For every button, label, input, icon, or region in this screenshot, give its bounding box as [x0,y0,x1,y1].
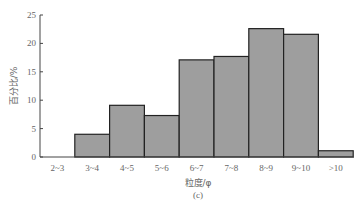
y-tick-label: 0 [32,152,37,162]
x-tick-label: 2~3 [50,163,64,173]
y-tick-label: 5 [32,124,37,134]
bar-3 [144,116,179,157]
bar-8 [318,151,353,157]
x-tick-label: >10 [329,163,344,173]
x-tick-labels: 2~33~44~55~66~77~88~99~10>10 [50,163,343,173]
histogram-chart: 0510152025 2~33~44~55~66~77~88~99~10>10 … [0,0,364,220]
x-tick-label: 5~6 [155,163,169,173]
y-axis-label: 百分比/% [8,66,19,105]
bar-1 [75,134,110,157]
y-tick-label: 20 [27,38,37,48]
figure-caption: (c) [193,190,203,200]
bars-group [75,29,353,157]
bar-2 [110,105,145,157]
x-axis-label: 粒度/φ [185,177,212,188]
bar-7 [284,34,319,157]
y-tick-label: 15 [27,67,37,77]
x-tick-label: 8~9 [259,163,273,173]
x-tick-label: 4~5 [120,163,134,173]
bar-6 [249,29,284,157]
y-ticks: 0510152025 [27,10,43,162]
x-tick-label: 6~7 [190,163,204,173]
x-tick-label: 3~4 [85,163,99,173]
bar-4 [179,60,214,157]
y-tick-label: 10 [27,95,37,105]
x-tick-label: 7~8 [224,163,238,173]
x-tick-label: 9~10 [292,163,311,173]
y-tick-label: 25 [27,10,37,20]
bar-5 [214,56,249,157]
